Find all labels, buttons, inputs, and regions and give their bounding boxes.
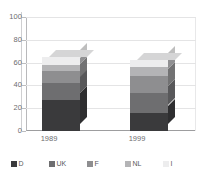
bar-segment-1999-UK (130, 93, 168, 112)
legend-label-UK: UK (57, 160, 67, 168)
bar-segment-1989-UK (42, 83, 80, 100)
y-tick-label-80: 80 (0, 36, 22, 44)
y-tick-label-100: 100 (0, 13, 22, 21)
bar-top-face-1989 (49, 50, 94, 57)
chart-3d-wall-edge (21, 12, 22, 131)
y-tick-mark-20 (22, 108, 26, 109)
bar-1989 (42, 0, 80, 131)
bar-segment-1989-NL (42, 65, 80, 71)
bar-segment-1999-D (130, 113, 168, 131)
y-tick-mark-100 (22, 17, 26, 18)
y-tick-mark-0 (22, 131, 26, 132)
bar-segment-1999-NL (130, 67, 168, 76)
y-tick-label-40: 40 (0, 81, 22, 89)
chart-legend: DUKFNLI (0, 157, 203, 171)
legend-label-I: I (171, 160, 173, 168)
bar-segment-1999-F (130, 76, 168, 93)
bar-segment-1999-I (130, 60, 168, 67)
y-tick-mark-40 (22, 85, 26, 86)
legend-swatch-NL (125, 161, 131, 167)
legend-swatch-F (87, 161, 93, 167)
x-axis-label-0: 1989 (19, 134, 79, 143)
legend-swatch-UK (49, 161, 55, 167)
bar-segment-1989-D (42, 100, 80, 131)
legend-label-NL: NL (133, 160, 142, 168)
y-tick-mark-60 (22, 63, 26, 64)
legend-item-F[interactable]: F (83, 160, 121, 168)
legend-swatch-D (11, 161, 17, 167)
legend-swatch-I (163, 161, 169, 167)
stacked-column-chart: 020406080100 1989 1999 DUKFNLI (0, 0, 203, 175)
legend-item-NL[interactable]: NL (121, 160, 159, 168)
legend-item-I[interactable]: I (159, 160, 197, 168)
bar-1999 (130, 0, 168, 131)
bar-segment-1989-F (42, 71, 80, 84)
plot-right-border (195, 17, 196, 131)
y-tick-label-20: 20 (0, 104, 22, 112)
legend-label-F: F (95, 160, 99, 168)
legend-label-D: D (19, 160, 24, 168)
y-tick-label-60: 60 (0, 59, 22, 67)
legend-item-D[interactable]: D (7, 160, 45, 168)
bar-segment-1989-I (42, 57, 80, 65)
x-axis-label-1: 1999 (107, 134, 167, 143)
y-tick-mark-80 (22, 40, 26, 41)
legend-item-UK[interactable]: UK (45, 160, 83, 168)
bar-top-face-1999 (137, 53, 182, 60)
